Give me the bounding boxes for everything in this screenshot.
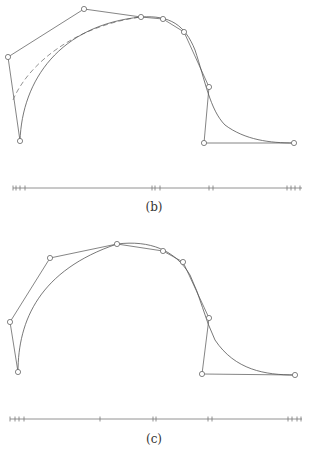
control-point	[206, 315, 211, 320]
control-point	[291, 140, 296, 145]
spline-curve-b	[20, 17, 294, 143]
control-point	[181, 29, 186, 34]
control-point	[180, 259, 185, 264]
caption-b: (b)	[134, 200, 174, 214]
figure-c	[7, 241, 302, 421]
control-point	[199, 371, 204, 376]
control-point	[138, 14, 143, 19]
control-polygon-c	[10, 244, 295, 375]
figure-b	[5, 6, 302, 190]
control-point	[160, 16, 165, 21]
control-point	[17, 138, 22, 143]
control-point	[206, 84, 211, 89]
diagram-canvas	[0, 0, 309, 453]
control-point	[7, 319, 12, 324]
control-point	[47, 255, 52, 260]
control-polygon-b	[8, 9, 294, 143]
control-point	[5, 54, 10, 59]
control-point	[292, 372, 297, 377]
control-point	[114, 241, 119, 246]
caption-c: (c)	[134, 432, 174, 446]
spline-curve-c	[18, 243, 295, 375]
control-points-b	[5, 6, 296, 145]
control-point	[81, 6, 86, 11]
control-point	[201, 140, 206, 145]
control-points-c	[7, 241, 297, 377]
control-point	[15, 369, 20, 374]
control-point	[160, 248, 165, 253]
